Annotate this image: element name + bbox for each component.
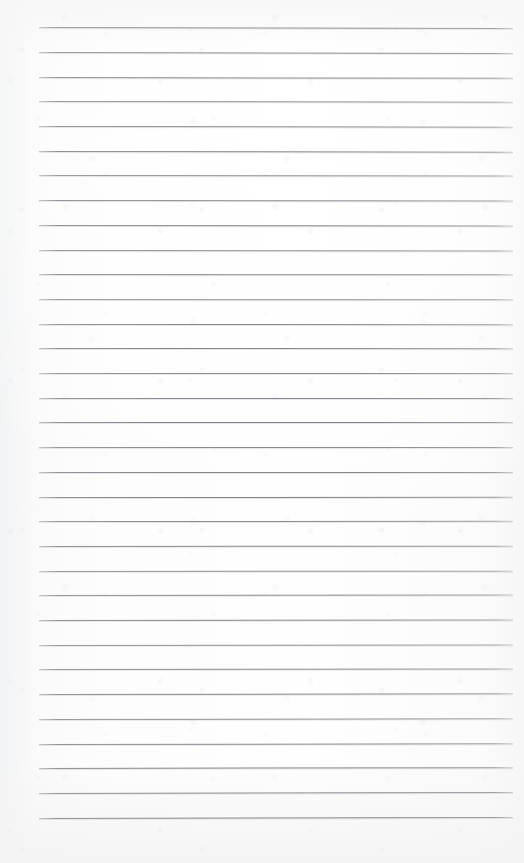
ruled-line [39,743,513,745]
ruled-line [39,126,513,128]
ruled-line [39,472,513,473]
ruled-line [39,348,513,349]
ruled-line [39,27,513,29]
ruled-line [39,422,513,423]
ruled-line [39,546,513,547]
ruled-line [39,669,513,671]
ruled-line [39,767,513,769]
ruled-line [39,521,513,522]
ruled-line [39,324,513,325]
scanned-page [0,0,524,863]
ruled-line [39,447,513,448]
ruled-line [39,620,513,621]
ruled-line [39,77,513,79]
ruled-line [39,373,513,374]
ruled-line [39,225,513,226]
ruled-line [39,398,513,399]
ruled-line [39,151,513,153]
ruled-line [39,496,513,497]
ruled-line [39,52,513,54]
ruled-line [39,101,513,103]
ruled-line [39,817,513,819]
ruled-line [39,595,513,596]
ruled-line [39,792,513,794]
ruled-line [39,644,513,646]
ruled-lines-layer [0,0,524,863]
ruled-line [39,718,513,720]
ruled-line [39,200,513,202]
ruled-line [39,299,513,300]
ruled-line [39,693,513,695]
ruled-line [39,274,513,275]
ruled-line [39,570,513,571]
ruled-line [39,250,513,251]
ruled-line [39,175,513,177]
